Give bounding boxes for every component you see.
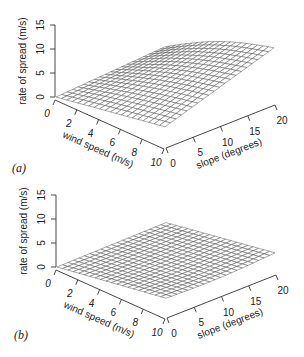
z-tick-label: 15 (35, 19, 46, 31)
figure: 051015rate of spread (m/s)0246810wind sp… (0, 0, 304, 357)
z-tick-label: 5 (35, 70, 46, 76)
wind-tick-label: 0 (44, 108, 50, 119)
z-tick-label: 15 (36, 189, 47, 201)
z-axis-label: rate of spread (m/s) (17, 17, 28, 104)
slope-tick-label: 0 (171, 328, 177, 339)
wind-tick (118, 129, 120, 134)
surface-mesh (56, 42, 274, 127)
slope-tick (193, 137, 195, 142)
wind-tick-label: 10 (151, 327, 163, 338)
wind-tick (163, 319, 165, 324)
wind-tick (162, 149, 164, 154)
wind-tick (53, 100, 55, 105)
slope-tick (222, 297, 224, 302)
wind-axis-label: wind speed (m/s) (60, 128, 135, 169)
surface-plot-a: 051015rate of spread (m/s)0246810wind sp… (12, 17, 288, 175)
slope-tick (276, 275, 278, 280)
surface-mesh (57, 223, 275, 299)
wind-tick-label: 2 (66, 288, 73, 299)
wind-tick-label: 8 (131, 147, 137, 158)
z-tick-label: 10 (35, 43, 46, 55)
wind-tick (97, 120, 99, 125)
wind-tick-label: 0 (45, 278, 51, 289)
wind-tick (141, 309, 143, 314)
wind-axis-label: wind speed (m/s) (61, 298, 136, 339)
wind-tick (75, 110, 77, 115)
wind-tick-label: 10 (150, 157, 162, 168)
wind-tick (76, 280, 78, 285)
slope-tick (221, 127, 223, 132)
z-tick-label: 5 (36, 240, 47, 246)
wind-tick (98, 290, 100, 295)
slope-tick-label: 0 (170, 158, 176, 169)
panel-label: (a) (12, 161, 26, 175)
slope-tick (275, 105, 277, 110)
slope-tick (166, 148, 168, 153)
panel-label: (b) (14, 328, 28, 342)
slope-tick (248, 116, 250, 121)
z-tick-label: 0 (35, 94, 46, 100)
slope-tick (249, 286, 251, 291)
slope-tick (167, 318, 169, 323)
wind-tick-label: 2 (65, 118, 72, 129)
z-tick-label: 10 (36, 213, 47, 225)
slope-tick-label: 20 (276, 115, 288, 126)
slope-tick-label: 20 (277, 285, 289, 296)
z-axis-label: rate of spread (m/s) (18, 187, 29, 274)
wind-tick (140, 139, 142, 144)
z-tick-label: 0 (36, 264, 47, 270)
surface-plot-b: 051015rate of spread (m/s)0246810wind sp… (14, 187, 289, 342)
wind-tick-label: 4 (88, 128, 94, 139)
wind-tick-label: 6 (110, 137, 116, 148)
wind-tick (54, 270, 56, 275)
wind-tick-label: 4 (89, 298, 95, 309)
wind-tick (119, 299, 121, 304)
slope-tick (194, 307, 196, 312)
wind-tick-label: 6 (111, 307, 117, 318)
wind-tick-label: 8 (132, 317, 138, 328)
